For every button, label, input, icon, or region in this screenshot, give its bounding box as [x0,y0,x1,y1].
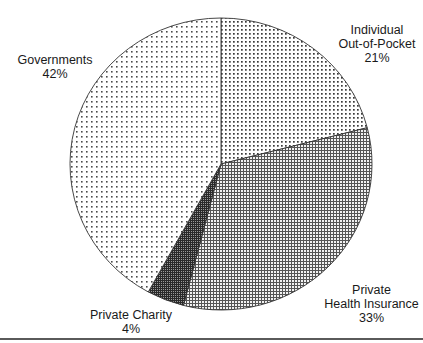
label-individual-line2: Out-of-Pocket [330,37,423,51]
label-private-health-line2: Health Insurance [320,297,423,311]
pie-slices [70,18,372,310]
bottom-rule-divider [0,338,423,340]
label-private-charity: Private Charity 4% [76,308,186,336]
label-individual-out-of-pocket: Individual Out-of-Pocket 21% [330,23,423,65]
label-individual-pct: 21% [330,51,423,65]
label-governments: Governments 42% [10,53,100,81]
label-governments-pct: 42% [10,67,100,81]
label-private-health-insurance: Private Health Insurance 33% [320,283,423,325]
label-individual-line1: Individual [330,23,423,37]
label-private-charity-pct: 4% [76,322,186,336]
label-private-charity-line1: Private Charity [76,308,186,322]
label-private-health-line1: Private [320,283,423,297]
label-private-health-pct: 33% [320,311,423,325]
pie-chart: Individual Out-of-Pocket 21% Private Hea… [0,0,423,343]
label-governments-line1: Governments [10,53,100,67]
